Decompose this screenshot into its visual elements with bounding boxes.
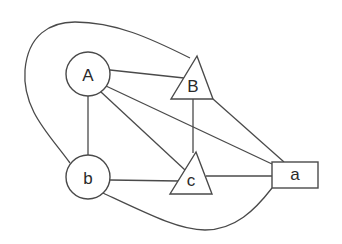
- node-b-label: b: [83, 169, 92, 188]
- node-A-label: A: [82, 66, 94, 85]
- edge-A-B: [110, 70, 184, 78]
- edges: [25, 22, 284, 230]
- node-c-label: c: [187, 171, 196, 190]
- node-a[interactable]: a: [272, 162, 318, 188]
- node-a-label: a: [290, 165, 300, 184]
- node-b[interactable]: b: [66, 155, 110, 199]
- edge-b-B-outer-curve: [25, 22, 190, 163]
- node-A[interactable]: A: [66, 52, 110, 96]
- node-c[interactable]: c: [170, 152, 212, 194]
- node-B-label: B: [187, 77, 198, 96]
- graph-diagram: A b B c a: [0, 0, 342, 244]
- edge-b-c: [110, 180, 179, 181]
